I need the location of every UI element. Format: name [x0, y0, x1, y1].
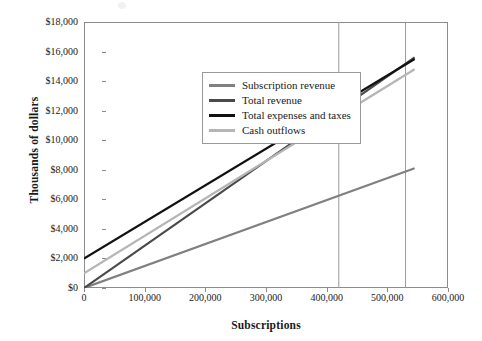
y-tick-label: $8,000	[24, 165, 78, 175]
legend-swatch	[209, 84, 235, 87]
x-axis-title: Subscriptions	[84, 319, 448, 331]
y-tick-label: $12,000	[24, 106, 78, 116]
legend-item: Total revenue	[209, 93, 351, 108]
legend-swatch	[209, 129, 235, 132]
x-tick-mark	[266, 288, 267, 292]
y-tick-label: $10,000	[24, 135, 78, 145]
chart-legend: Subscription revenueTotal revenueTotal e…	[202, 72, 361, 144]
x-tick-label: 600,000	[408, 292, 482, 303]
legend-label: Subscription revenue	[242, 80, 335, 91]
y-tick-mark	[102, 288, 106, 289]
y-tick-label: $6,000	[24, 194, 78, 204]
legend-swatch	[209, 99, 235, 102]
series-canvas	[84, 22, 448, 288]
legend-label: Total revenue	[242, 95, 302, 106]
legend-swatch	[209, 114, 235, 117]
legend-label: Cash outflows	[242, 125, 305, 136]
plot-area: Subscription revenueTotal revenueTotal e…	[84, 22, 448, 288]
y-tick-label: $14,000	[24, 76, 78, 86]
legend-item: Subscription revenue	[209, 78, 351, 93]
x-tick-mark	[205, 288, 206, 292]
y-axis-tick-labels: $0$2,000$4,000$6,000$8,000$10,000$12,000…	[22, 0, 78, 341]
legend-item: Cash outflows	[209, 123, 351, 138]
y-tick-label: $16,000	[24, 47, 78, 57]
y-tick-label: $18,000	[24, 17, 78, 27]
legend-item: Total expenses and taxes	[209, 108, 351, 123]
legend-label: Total expenses and taxes	[242, 110, 351, 121]
x-tick-mark	[327, 288, 328, 292]
x-tick-mark	[387, 288, 388, 292]
scan-artifact	[118, 2, 126, 9]
x-tick-mark	[84, 288, 85, 292]
y-tick-label: $4,000	[24, 224, 78, 234]
line-chart: Thousands of dollars $0$2,000$4,000$6,00…	[0, 0, 482, 341]
x-tick-mark	[448, 288, 449, 292]
x-tick-mark	[145, 288, 146, 292]
y-tick-label: $2,000	[24, 253, 78, 263]
